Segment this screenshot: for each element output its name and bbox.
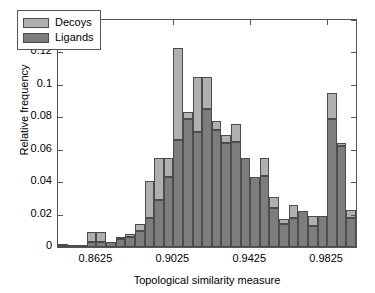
- bar-segment-decoys: [202, 77, 212, 109]
- bar-segment-decoys: [183, 112, 193, 118]
- histogram-bar: [289, 205, 299, 247]
- bar-segment-ligands: [145, 218, 155, 247]
- bar-series-container: [58, 20, 356, 247]
- histogram-bar: [145, 181, 155, 247]
- bar-segment-ligands: [308, 226, 318, 247]
- y-axis-tick: [351, 182, 356, 183]
- bar-segment-ligands: [173, 140, 183, 247]
- x-axis-tick: [250, 20, 251, 25]
- x-tick-label: 0.9025: [142, 252, 202, 264]
- histogram-bar: [250, 177, 260, 247]
- y-tick-label: 0.04: [4, 174, 52, 186]
- bar-segment-decoys: [231, 124, 241, 142]
- bar-segment-ligands: [154, 200, 164, 247]
- histogram-bar: [212, 121, 222, 247]
- histogram-bar: [154, 158, 164, 247]
- x-tick-label: 0.9425: [219, 252, 279, 264]
- bar-segment-ligands: [327, 119, 337, 247]
- legend-swatch-ligands-icon: [23, 33, 49, 43]
- bar-segment-decoys: [327, 93, 337, 119]
- y-axis-tick: [58, 52, 63, 53]
- histogram-bar: [193, 77, 203, 247]
- plot-area: [57, 19, 357, 248]
- legend-swatch-decoys-icon: [23, 18, 49, 28]
- y-tick-label: 0.06: [4, 142, 52, 154]
- histogram-bar: [87, 232, 97, 247]
- histogram-bar: [269, 197, 279, 247]
- histogram-bar: [318, 216, 328, 247]
- y-axis-tick: [351, 85, 356, 86]
- x-axis-tick: [250, 242, 251, 247]
- x-axis-tick: [173, 20, 174, 25]
- bar-segment-decoys: [77, 245, 87, 247]
- bar-segment-ligands: [269, 208, 279, 247]
- x-axis-tick: [173, 242, 174, 247]
- y-axis-tick: [351, 20, 356, 21]
- histogram-bar: [202, 77, 212, 247]
- histogram-bar: [260, 158, 270, 247]
- chart-legend: Decoys Ligands: [17, 10, 101, 50]
- bar-segment-ligands: [346, 218, 356, 247]
- bar-segment-ligands: [337, 146, 347, 247]
- bar-segment-ligands: [106, 242, 116, 247]
- y-tick-label: 0: [4, 239, 52, 251]
- bar-segment-decoys: [193, 77, 203, 132]
- chart-figure: Relative frequency Topological similarit…: [0, 0, 375, 293]
- bar-segment-decoys: [154, 158, 164, 200]
- bar-segment-ligands: [116, 239, 126, 247]
- y-axis-tick: [58, 182, 63, 183]
- bar-segment-decoys: [337, 143, 347, 146]
- bar-segment-ligands: [164, 177, 174, 247]
- bar-segment-ligands: [135, 231, 145, 247]
- bar-segment-decoys: [269, 197, 279, 208]
- histogram-bar: [125, 234, 135, 247]
- histogram-bar: [106, 242, 116, 247]
- histogram-bar: [116, 237, 126, 247]
- y-axis-tick: [351, 247, 356, 248]
- bar-segment-decoys: [96, 232, 106, 242]
- bar-segment-decoys: [221, 135, 231, 143]
- histogram-bar: [135, 224, 145, 247]
- bar-segment-decoys: [58, 244, 68, 246]
- x-tick-label: 0.8625: [65, 252, 125, 264]
- y-axis-tick: [58, 247, 63, 248]
- x-axis-tick: [327, 242, 328, 247]
- bar-segment-decoys: [212, 121, 222, 131]
- y-axis-tick: [351, 215, 356, 216]
- x-tick-label: 0.9825: [296, 252, 356, 264]
- y-axis-tick: [351, 150, 356, 151]
- bar-segment-decoys: [289, 205, 299, 218]
- y-axis-tick: [351, 117, 356, 118]
- bar-segment-ligands: [125, 237, 135, 247]
- y-tick-label: 0.08: [4, 109, 52, 121]
- y-axis-tick: [58, 117, 63, 118]
- bar-segment-decoys: [125, 234, 135, 237]
- histogram-bar: [241, 158, 251, 247]
- y-axis-tick: [58, 150, 63, 151]
- bar-segment-ligands: [279, 224, 289, 247]
- bar-segment-decoys: [308, 216, 318, 226]
- bar-segment-decoys: [260, 158, 270, 176]
- bar-segment-decoys: [87, 232, 97, 242]
- histogram-bar: [327, 93, 337, 247]
- bar-segment-ligands: [96, 242, 106, 247]
- bar-segment-ligands: [298, 211, 308, 247]
- y-axis-tick: [351, 52, 356, 53]
- x-axis-label: Topological similarity measure: [57, 274, 357, 286]
- bar-segment-ligands: [183, 119, 193, 247]
- y-axis-tick: [58, 215, 63, 216]
- histogram-bar: [337, 143, 347, 247]
- bar-segment-ligands: [87, 242, 97, 247]
- bar-segment-decoys: [173, 48, 183, 140]
- bar-segment-ligands: [231, 142, 241, 247]
- histogram-bar: [183, 112, 193, 247]
- histogram-bar: [173, 48, 183, 247]
- bar-segment-decoys: [116, 237, 126, 239]
- legend-item-ligands: Ligands: [23, 30, 94, 45]
- y-tick-label: 0.02: [4, 207, 52, 219]
- bar-segment-decoys: [279, 219, 289, 224]
- bar-segment-ligands: [289, 218, 299, 247]
- histogram-bar: [96, 232, 106, 247]
- bar-segment-decoys: [145, 181, 155, 218]
- histogram-bar: [68, 246, 78, 247]
